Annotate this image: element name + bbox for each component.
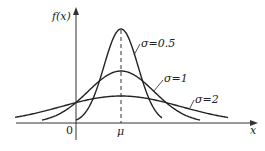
x-axis-label: x bbox=[250, 124, 257, 137]
sigma-1-label: σ=1 bbox=[164, 72, 188, 85]
y-axis-arrow-icon bbox=[73, 7, 79, 15]
sigma-0-5-label: σ=0.5 bbox=[141, 37, 175, 50]
mu-label: μ bbox=[117, 125, 124, 138]
sigma-2-label: σ=2 bbox=[195, 93, 219, 106]
y-axis-label: f(x) bbox=[51, 10, 71, 23]
normal-distribution-chart: f(x) x 0 μ σ=0.5 σ=1 σ=2 bbox=[0, 0, 265, 151]
origin-label: 0 bbox=[66, 124, 73, 137]
